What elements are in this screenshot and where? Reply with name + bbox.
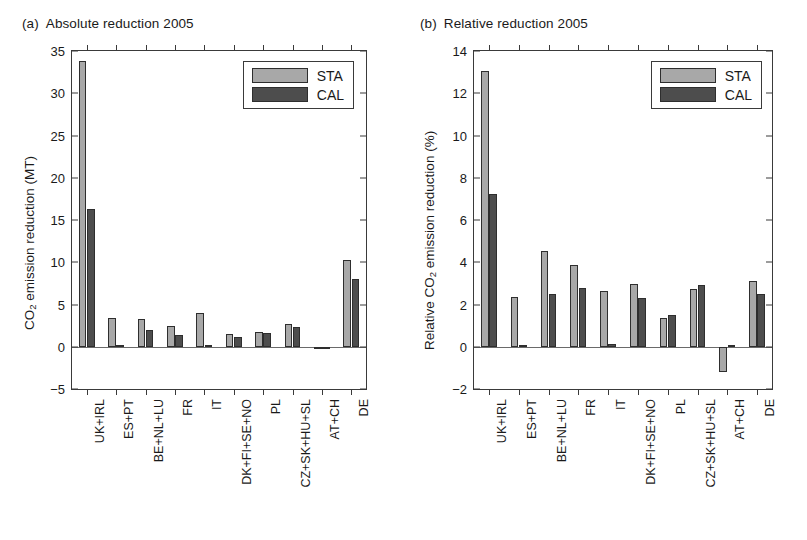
y-tick-label: 12 xyxy=(453,86,474,101)
x-tick-mark xyxy=(322,389,323,395)
x-tick-mark xyxy=(116,45,117,51)
y-tick-mark xyxy=(474,51,480,52)
legend-swatch-sta-icon xyxy=(660,68,716,83)
x-tick-mark xyxy=(204,45,205,51)
x-tick-label: PL xyxy=(674,399,688,414)
panel-b-tag: (b) xyxy=(420,16,437,31)
x-tick-mark xyxy=(351,389,352,395)
panel-a-y-axis-label: CO2 emission reduction (MT) xyxy=(22,156,38,330)
x-tick-label: ES+PT xyxy=(525,399,539,439)
x-tick-mark xyxy=(322,45,323,51)
bar-cal-dk-fi-se-no xyxy=(234,337,242,347)
x-tick-mark xyxy=(87,45,88,51)
x-tick-mark xyxy=(263,389,264,395)
x-tick-label: DK+FI+SE+NO xyxy=(644,399,658,485)
bar-sta-de xyxy=(343,260,351,347)
x-tick-label: ES+PT xyxy=(122,399,136,439)
x-tick-label: FR xyxy=(181,399,195,416)
panel-a-title-text: Absolute reduction 2005 xyxy=(46,16,194,31)
legend-label-cal: CAL xyxy=(317,88,344,102)
bar-cal-es-pt xyxy=(519,345,527,347)
x-tick-mark xyxy=(727,389,728,395)
x-tick-mark xyxy=(489,389,490,395)
x-tick-mark xyxy=(293,389,294,395)
bar-sta-fr xyxy=(167,326,175,346)
x-tick-mark xyxy=(234,45,235,51)
x-tick-mark xyxy=(87,389,88,395)
y-tick-mark xyxy=(474,304,480,305)
y-tick-label: 0 xyxy=(460,339,474,354)
x-tick-label: CZ+SK+HU+SL xyxy=(704,399,718,488)
x-tick-mark xyxy=(698,45,699,51)
y-tick-mark xyxy=(766,177,772,178)
y-tick-mark xyxy=(360,220,366,221)
x-tick-mark xyxy=(668,45,669,51)
x-tick-mark xyxy=(175,45,176,51)
bar-sta-at-ch xyxy=(314,347,322,349)
bar-cal-pl xyxy=(668,315,676,347)
y-tick-mark xyxy=(360,177,366,178)
panel-a-title: (a)Absolute reduction 2005 xyxy=(22,16,194,31)
bar-cal-cz-sk-hu-sl xyxy=(698,285,706,346)
panel-b: (b)Relative reduction 2005 Relative CO2 … xyxy=(404,0,807,540)
panel-b-legend: STA CAL xyxy=(651,61,762,109)
x-tick-mark xyxy=(146,389,147,395)
y-tick-label: 14 xyxy=(453,44,474,59)
y-tick-mark xyxy=(72,304,78,305)
x-tick-mark xyxy=(489,45,490,51)
legend-label-sta: STA xyxy=(725,69,751,83)
x-tick-mark xyxy=(578,389,579,395)
panel-a-plot-area: STA CAL −505101520253035UK+IRLES+PTBE+NL… xyxy=(71,50,367,390)
bar-sta-at-ch xyxy=(719,347,727,372)
y-tick-mark xyxy=(766,51,772,52)
x-tick-label: BE+NL+LU xyxy=(152,399,166,462)
x-tick-mark xyxy=(638,389,639,395)
bar-sta-cz-sk-hu-sl xyxy=(690,289,698,347)
bar-sta-de xyxy=(749,281,757,346)
x-tick-mark xyxy=(727,45,728,51)
legend-swatch-sta-icon xyxy=(252,68,308,83)
x-tick-mark xyxy=(608,389,609,395)
bar-cal-it xyxy=(205,345,213,347)
y-tick-label: 5 xyxy=(58,297,72,312)
y-tick-label: 30 xyxy=(51,86,72,101)
y-tick-mark xyxy=(474,135,480,136)
bar-sta-be-nl-lu xyxy=(541,251,549,347)
y-tick-mark xyxy=(766,304,772,305)
x-tick-label: FR xyxy=(584,399,598,416)
y-tick-mark xyxy=(766,262,772,263)
y-tick-mark xyxy=(360,93,366,94)
bar-cal-pl xyxy=(263,333,271,347)
y-tick-label: 4 xyxy=(460,255,474,270)
panel-b-y-axis-label: Relative CO2 emission reduction (%) xyxy=(422,131,438,350)
y-tick-mark xyxy=(474,93,480,94)
bar-cal-be-nl-lu xyxy=(549,294,557,347)
bar-sta-es-pt xyxy=(108,318,116,347)
panel-a: (a)Absolute reduction 2005 CO2 emission … xyxy=(0,0,403,540)
bar-sta-uk-irl xyxy=(481,71,489,347)
legend-row-cal: CAL xyxy=(660,87,752,102)
legend-swatch-cal-icon xyxy=(660,87,716,102)
y-tick-label: 35 xyxy=(51,44,72,59)
y-tick-mark xyxy=(72,346,78,347)
bar-sta-pl xyxy=(660,318,668,347)
y-tick-label: −2 xyxy=(452,382,474,397)
figure-two-panel-bar-charts: (a)Absolute reduction 2005 CO2 emission … xyxy=(0,0,807,540)
y-label-sub-b: 2 xyxy=(427,272,438,277)
bar-cal-fr xyxy=(579,288,587,347)
x-tick-label: CZ+SK+HU+SL xyxy=(299,399,313,488)
x-tick-label: UK+IRL xyxy=(495,399,509,443)
y-tick-mark xyxy=(474,262,480,263)
x-tick-mark xyxy=(263,45,264,51)
legend-row-sta: STA xyxy=(252,68,344,83)
x-tick-mark xyxy=(175,389,176,395)
y-tick-label: 10 xyxy=(51,255,72,270)
y-tick-mark xyxy=(72,389,78,390)
x-tick-label: AT+CH xyxy=(733,399,747,439)
y-tick-mark xyxy=(474,346,480,347)
y-tick-mark xyxy=(360,389,366,390)
y-tick-mark xyxy=(766,389,772,390)
y-tick-label: 0 xyxy=(58,339,72,354)
panel-b-title-text: Relative reduction 2005 xyxy=(444,16,588,31)
x-tick-mark xyxy=(293,45,294,51)
